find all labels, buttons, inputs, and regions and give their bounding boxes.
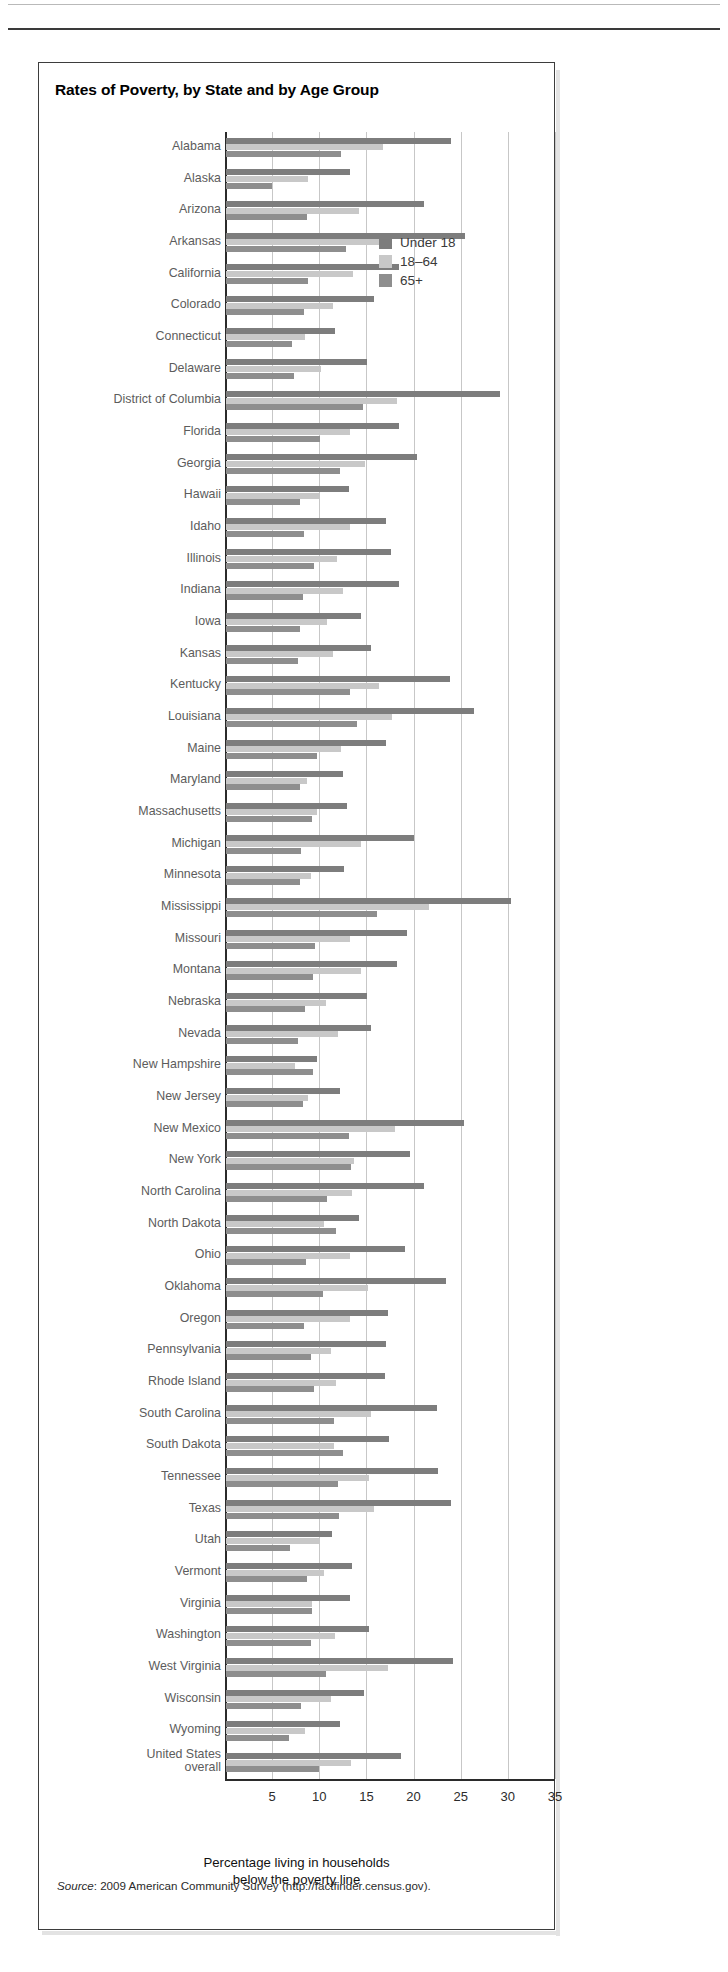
bar-under-18 <box>226 169 350 175</box>
bar-under-18 <box>226 1183 424 1189</box>
bar-18-64 <box>226 1570 324 1576</box>
bar-row: North Carolina <box>225 1177 555 1209</box>
bar-under-18 <box>226 1278 446 1284</box>
bar-row: Colorado <box>225 290 555 322</box>
bar-row: Iowa <box>225 607 555 639</box>
bar-row-label: Delaware <box>0 362 221 375</box>
bar-row: Illinois <box>225 544 555 576</box>
bar-under-18 <box>226 201 424 207</box>
gridline <box>555 132 556 1779</box>
bar-65- <box>226 689 350 695</box>
bar-18-64 <box>226 524 350 530</box>
bar-row: Delaware <box>225 354 555 386</box>
bar-65- <box>226 848 301 854</box>
legend-item-under-18: Under 18 <box>379 235 456 250</box>
legend-item-65-plus: 65+ <box>379 273 456 288</box>
bar-18-64 <box>226 239 391 245</box>
bar-row: Florida <box>225 417 555 449</box>
bar-under-18 <box>226 1341 386 1347</box>
bar-under-18 <box>226 1373 385 1379</box>
bar-under-18 <box>226 1215 359 1221</box>
bar-under-18 <box>226 771 343 777</box>
bar-65- <box>226 1386 314 1392</box>
bar-under-18 <box>226 803 347 809</box>
bar-row-label: Florida <box>0 425 221 438</box>
bar-row-label: Michigan <box>0 837 221 850</box>
x-axis-line <box>225 1779 555 1781</box>
bar-under-18 <box>226 359 367 365</box>
bar-row: Rhode Island <box>225 1367 555 1399</box>
bar-under-18 <box>226 993 367 999</box>
legend-label: 65+ <box>400 273 423 288</box>
bar-65- <box>226 1608 312 1614</box>
bar-row-label: Oklahoma <box>0 1280 221 1293</box>
bar-under-18 <box>226 1753 401 1759</box>
bar-under-18 <box>226 1151 410 1157</box>
bar-row: Massachusetts <box>225 797 555 829</box>
bar-65- <box>226 1038 298 1044</box>
bar-row-label: Arizona <box>0 203 221 216</box>
bar-row: Nevada <box>225 1019 555 1051</box>
bar-under-18 <box>226 835 414 841</box>
bar-row: Virginia <box>225 1589 555 1621</box>
bar-18-64 <box>226 1380 336 1386</box>
bar-18-64 <box>226 588 343 594</box>
legend-swatch-icon <box>379 274 392 287</box>
x-tick-label: 10 <box>299 1789 339 1804</box>
bar-65- <box>226 1323 304 1329</box>
bar-18-64 <box>226 334 305 340</box>
figure-box: Rates of Poverty, by State and by Age Gr… <box>38 62 555 1930</box>
bar-under-18 <box>226 518 386 524</box>
bar-18-64 <box>226 1475 369 1481</box>
bar-under-18 <box>226 676 450 682</box>
bar-row-label: New Hampshire <box>0 1058 221 1071</box>
x-axis-title-line1: Percentage living in households <box>39 1855 554 1872</box>
bar-row-label: South Dakota <box>0 1438 221 1451</box>
bar-row: Alabama <box>225 132 555 164</box>
bar-row: Nebraska <box>225 987 555 1019</box>
bar-row-label: New Jersey <box>0 1090 221 1103</box>
bar-18-64 <box>226 904 429 910</box>
bar-65- <box>226 404 363 410</box>
bar-65- <box>226 1291 323 1297</box>
bar-row-label: Oregon <box>0 1312 221 1325</box>
chart-plot-area: AlabamaAlaskaArizonaArkansasCaliforniaCo… <box>225 132 555 1779</box>
bar-row-label: Utah <box>0 1533 221 1546</box>
bar-row: North Dakota <box>225 1209 555 1241</box>
bar-18-64 <box>226 714 392 720</box>
x-tick-label: 25 <box>441 1789 481 1804</box>
bar-18-64 <box>226 1696 331 1702</box>
bar-under-18 <box>226 613 361 619</box>
bar-18-64 <box>226 1728 305 1734</box>
x-tick-label: 35 <box>535 1789 575 1804</box>
figure-source: Source: 2009 American Community Survey (… <box>57 1879 431 1892</box>
bar-under-18 <box>226 866 344 872</box>
bar-row: Tennessee <box>225 1462 555 1494</box>
bar-65- <box>226 278 308 284</box>
bar-65- <box>226 1703 301 1709</box>
bar-65- <box>226 1196 327 1202</box>
bar-18-64 <box>226 1000 326 1006</box>
bar-18-64 <box>226 1601 312 1607</box>
bar-row-label: Rhode Island <box>0 1375 221 1388</box>
bar-65- <box>226 246 346 252</box>
bar-under-18 <box>226 1310 388 1316</box>
bar-65- <box>226 594 303 600</box>
bar-65- <box>226 1133 349 1139</box>
bar-18-64 <box>226 1316 350 1322</box>
bar-18-64 <box>226 144 383 150</box>
bar-row-label: Nebraska <box>0 995 221 1008</box>
bar-under-18 <box>226 423 399 429</box>
bar-18-64 <box>226 1095 308 1101</box>
bar-65- <box>226 816 312 822</box>
bar-18-64 <box>226 1158 354 1164</box>
bar-65- <box>226 1259 306 1265</box>
bar-18-64 <box>226 809 317 815</box>
page-top-rule <box>8 4 720 5</box>
bar-row-label: Alabama <box>0 140 221 153</box>
bar-row: Louisiana <box>225 702 555 734</box>
bar-18-64 <box>226 1031 338 1037</box>
bar-row-label: Hawaii <box>0 488 221 501</box>
bar-under-18 <box>226 1405 437 1411</box>
bar-row: New Mexico <box>225 1114 555 1146</box>
